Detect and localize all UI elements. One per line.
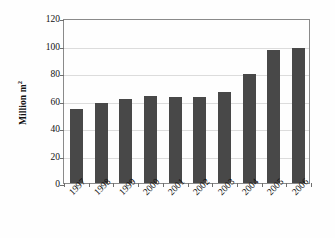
x-axis-tick-labels: 1997199819992000200120022003200420052006 bbox=[63, 184, 310, 238]
bar bbox=[169, 97, 182, 183]
bar-series bbox=[64, 20, 309, 183]
y-axis-tick-label: 0 bbox=[34, 179, 60, 189]
bar bbox=[144, 96, 157, 183]
bar bbox=[292, 48, 305, 183]
y-axis-tick-label: 100 bbox=[34, 42, 60, 52]
y-axis-tick-labels: 020406080100120 bbox=[32, 0, 60, 238]
y-axis-tick-label: 60 bbox=[34, 97, 60, 107]
bar bbox=[243, 74, 256, 183]
y-axis-title: Million m2 bbox=[16, 58, 30, 148]
bar bbox=[95, 103, 108, 183]
bar bbox=[119, 99, 132, 183]
y-axis-tick-label: 20 bbox=[34, 152, 60, 162]
y-axis-title-text: Million m bbox=[18, 84, 28, 125]
bar bbox=[193, 97, 206, 183]
x-tick-mark bbox=[311, 183, 312, 187]
bar-chart-figure: Million m2 020406080100120 1997199819992… bbox=[0, 0, 335, 238]
bar bbox=[267, 50, 280, 183]
y-axis-title-superscript: 2 bbox=[16, 81, 23, 84]
bar bbox=[218, 92, 231, 183]
bar bbox=[70, 109, 83, 183]
y-axis-tick-label: 80 bbox=[34, 69, 60, 79]
y-axis-tick-label: 40 bbox=[34, 124, 60, 134]
y-axis-tick-label: 120 bbox=[34, 14, 60, 24]
plot-area bbox=[63, 19, 310, 184]
